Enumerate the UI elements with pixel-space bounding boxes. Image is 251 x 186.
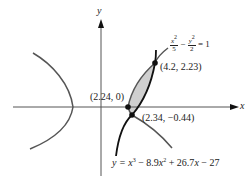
fraction-y2-over-2: y2 2 (188, 37, 196, 53)
x-axis-label: x (240, 101, 244, 111)
point-label-2-34-neg0-44: (2.34, −0.44) (142, 113, 194, 123)
hyperbola-left-branch (30, 53, 73, 149)
point-label-2-24-0: (2.24, 0) (90, 92, 124, 102)
hyperbola-equation-label: x2 5 − y2 2 = 1 (170, 37, 210, 53)
y-axis-label: y (97, 6, 101, 16)
cubic-equation-label: y = x3 − 8.9x2 + 26.7x − 27 (112, 158, 219, 168)
fraction-x2-over-5: x2 5 (170, 37, 178, 53)
point-label-4-2-2-23: (4.2, 2.23) (160, 62, 202, 72)
intersection-point-4-2-2-23 (152, 60, 158, 66)
intersection-point-2-34-neg0-44 (129, 112, 135, 118)
y-axis-arrow-icon (98, 19, 104, 28)
intersection-point-2-24-0 (125, 104, 131, 110)
x-axis-arrow-icon (230, 104, 239, 110)
